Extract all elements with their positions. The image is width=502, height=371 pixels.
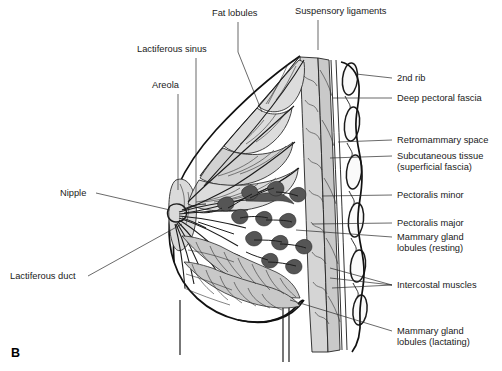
label-suspensory-ligaments: Suspensory ligaments <box>295 6 387 16</box>
label-mammary-gland-lactating-line2: lobules (lactating) <box>397 337 470 347</box>
label-mammary-gland-resting-line2: lobules (resting) <box>397 243 463 253</box>
label-2nd-rib: 2nd rib <box>397 73 425 83</box>
breast-anatomy-diagram: Fat lobules Suspensory ligaments Lactife… <box>0 0 502 371</box>
label-retromammary-space: Retromammary space <box>397 135 488 145</box>
label-intercostal-muscles: Intercostal muscles <box>397 280 477 290</box>
label-pectoralis-major: Pectoralis major <box>397 218 464 228</box>
label-superficial-fascia: (superficial fascia) <box>397 162 472 172</box>
panel-label: B <box>11 346 20 360</box>
label-lactiferous-sinus: Lactiferous sinus <box>137 44 207 54</box>
label-subcutaneous-tissue: Subcutaneous tissue <box>397 151 483 161</box>
label-fat-lobules: Fat lobules <box>212 8 258 18</box>
label-mammary-gland-resting-line1: Mammary gland <box>397 232 464 242</box>
label-mammary-gland-lactating-line1: Mammary gland <box>397 326 464 336</box>
anatomy-figure: Fat lobules Suspensory ligaments Lactife… <box>0 0 502 371</box>
label-nipple: Nipple <box>60 188 86 198</box>
label-pectoralis-minor: Pectoralis minor <box>397 190 464 200</box>
label-areola: Areola <box>152 80 180 90</box>
label-deep-pectoral-fascia: Deep pectoral fascia <box>397 93 483 103</box>
label-lactiferous-duct: Lactiferous duct <box>10 271 76 281</box>
